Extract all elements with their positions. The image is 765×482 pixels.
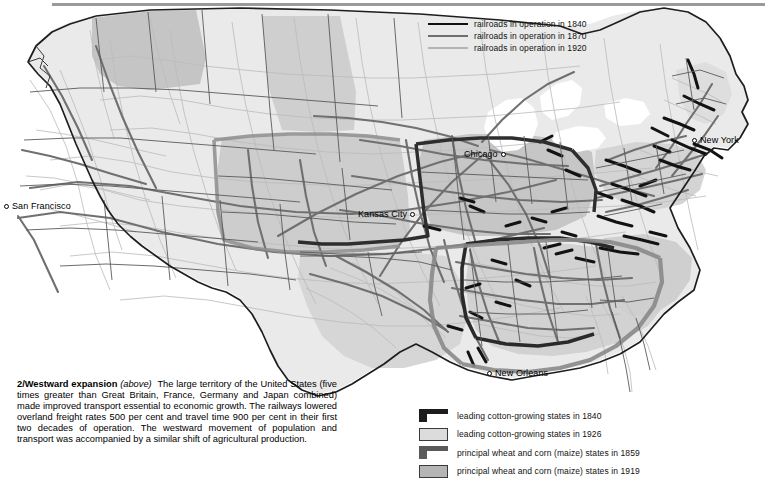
cotton-1840-swatch-icon xyxy=(419,409,448,422)
wheat-corn-1859-swatch-icon xyxy=(419,446,448,459)
wheat-corn-1919-swatch-icon xyxy=(419,465,448,478)
city-marker-icon xyxy=(487,371,492,376)
city-marker-icon xyxy=(4,204,9,209)
legend-item-cotton-1926: leading cotton-growing states in 1926 xyxy=(419,427,640,442)
legend-label: principal wheat and corn (maize) states … xyxy=(457,448,640,458)
figure-caption: 2/Westward expansion (above) The large t… xyxy=(17,379,337,446)
legend-label: railroads in operation in 1920 xyxy=(474,44,587,53)
legend-item-railroads-1840: railroads in operation in 1840 xyxy=(428,19,587,29)
legend-label: principal wheat and corn (maize) states … xyxy=(457,466,640,476)
city-label-kansas-city: Kansas City xyxy=(358,209,415,219)
legend-item-wheat-corn-1859: principal wheat and corn (maize) states … xyxy=(419,445,640,460)
city-name: Kansas City xyxy=(358,209,407,219)
railroad-line-swatch-1920-icon xyxy=(428,43,468,53)
railroad-legend: railroads in operation in 1840 railroads… xyxy=(428,19,587,55)
city-name: New Orleans xyxy=(495,368,548,378)
legend-label: railroads in operation in 1840 xyxy=(474,20,587,29)
legend-label: leading cotton-growing states in 1926 xyxy=(457,429,602,439)
area-legend: leading cotton-growing states in 1840 le… xyxy=(419,408,640,482)
city-marker-icon xyxy=(692,138,697,143)
legend-item-railroads-1870: railroads in operation in 1870 xyxy=(428,31,587,41)
figure-number: 2/ xyxy=(17,379,25,389)
city-marker-icon xyxy=(410,212,415,217)
figure-above-note: (above) xyxy=(120,379,152,389)
city-label-san-francisco: San Francisco xyxy=(4,201,71,211)
legend-item-cotton-1840: leading cotton-growing states in 1840 xyxy=(419,408,640,423)
railroad-line-swatch-1840-icon xyxy=(428,19,468,29)
legend-label: leading cotton-growing states in 1840 xyxy=(457,411,602,421)
city-name: San Francisco xyxy=(12,201,71,211)
city-label-new-york: New York xyxy=(692,135,739,145)
city-label-chicago: Chicago xyxy=(464,149,506,159)
city-marker-icon xyxy=(501,152,506,157)
legend-item-railroads-1920: railroads in operation in 1920 xyxy=(428,43,587,53)
legend-item-wheat-corn-1919: principal wheat and corn (maize) states … xyxy=(419,464,640,479)
us-railroad-map xyxy=(0,0,765,400)
railroad-line-swatch-1870-icon xyxy=(428,31,468,41)
legend-label: railroads in operation in 1870 xyxy=(474,32,587,41)
city-label-new-orleans: New Orleans xyxy=(487,368,548,378)
figure-title: Westward expansion xyxy=(25,379,118,389)
city-name: Chicago xyxy=(464,149,498,159)
city-name: New York xyxy=(700,135,739,145)
cotton-1926-swatch-icon xyxy=(419,428,448,441)
